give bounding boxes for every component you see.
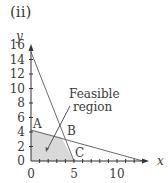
y-tick-label-16: 16: [10, 38, 25, 52]
point-label-c: C: [75, 146, 84, 160]
x-tick-label-0: 0: [27, 167, 35, 181]
x-axis-arrow-icon: [142, 159, 149, 164]
y-axis-arrow-icon: [29, 44, 34, 51]
y-tick-label-12: 12: [10, 67, 25, 81]
x-tick-label-5: 5: [70, 167, 78, 181]
feasible-region-chart: y 16 14 12 10 8 6 4 2 0 0 5 10 x A B C F…: [0, 0, 168, 183]
y-tick-label-2: 2: [17, 140, 25, 154]
point-label-b: B: [67, 124, 76, 138]
y-tick-label-14: 14: [10, 53, 26, 67]
y-tick-label-6: 6: [17, 111, 25, 125]
y-tick-label-8: 8: [17, 96, 25, 110]
point-label-a: A: [32, 117, 42, 131]
annotation-line2: region: [73, 100, 113, 114]
y-tick-label-0: 0: [17, 154, 25, 168]
x-axis-label: x: [157, 154, 164, 168]
y-tick-label-4: 4: [17, 125, 25, 139]
annotation-line1: Feasible: [69, 87, 120, 101]
y-tick-label-10: 10: [10, 82, 25, 96]
x-tick-label-10: 10: [109, 167, 124, 181]
